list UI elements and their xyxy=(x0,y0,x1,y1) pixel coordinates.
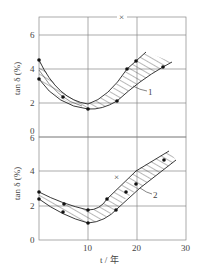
upper-ylabel: tan δ (%) xyxy=(12,62,22,95)
lower-grid xyxy=(39,137,186,240)
label-1-leader xyxy=(133,86,147,91)
upper-ytick-4: 4 xyxy=(30,64,35,74)
lower-ytick-0: 0 xyxy=(30,235,35,245)
xlabel: t / 年 xyxy=(100,254,119,265)
lower-ytick-4: 4 xyxy=(30,166,35,176)
chart-figure: 1 × 6 4 2 0 tan δ (%) xyxy=(0,0,199,277)
xtick-10: 10 xyxy=(83,243,93,253)
lower-ytick-2: 2 xyxy=(30,201,35,211)
lower-ytick-6: 6 xyxy=(30,133,35,143)
upper-grid xyxy=(39,17,186,137)
lower-panel: × 2 6 4 2 0 tan δ (%) 10 20 30 t / 年 xyxy=(12,133,191,265)
cross-marker-upper: × xyxy=(119,12,124,22)
upper-panel: 1 × 6 4 2 0 tan δ (%) xyxy=(12,12,186,137)
upper-ytick-6: 6 xyxy=(30,30,35,40)
label-2-leader xyxy=(140,188,152,194)
xtick-30: 30 xyxy=(181,243,191,253)
upper-ytick-2: 2 xyxy=(30,98,35,108)
curve-label-1: 1 xyxy=(148,87,153,97)
cross-marker-lower: × xyxy=(114,172,119,182)
xtick-20: 20 xyxy=(132,243,142,253)
band-1-fill xyxy=(39,52,172,109)
curve-label-2: 2 xyxy=(153,190,158,200)
lower-ylabel: tan δ (%) xyxy=(12,167,22,200)
